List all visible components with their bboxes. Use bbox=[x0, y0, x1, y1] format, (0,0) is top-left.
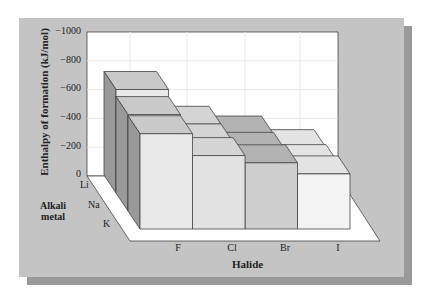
z-axis-label-line2: metal bbox=[40, 211, 66, 222]
col-label-br: Br bbox=[270, 242, 300, 253]
bar-front bbox=[140, 134, 193, 229]
col-label-f: F bbox=[163, 242, 193, 253]
y-tick: 0 bbox=[41, 168, 81, 179]
bar-side bbox=[116, 97, 128, 211]
row-label-k: K bbox=[103, 218, 110, 229]
row-label-na: Na bbox=[88, 199, 100, 210]
y-tick: −400 bbox=[41, 111, 81, 122]
col-label-i: I bbox=[323, 242, 353, 253]
bar-side bbox=[104, 72, 116, 193]
z-axis-label: Alkali metal bbox=[40, 200, 66, 222]
bar-front bbox=[245, 163, 298, 229]
x-axis-label: Halide bbox=[232, 258, 263, 270]
y-tick: −600 bbox=[41, 82, 81, 93]
bar-side bbox=[128, 116, 140, 229]
y-tick: −1000 bbox=[41, 25, 81, 36]
bar-front bbox=[298, 174, 351, 229]
row-label-li: Li bbox=[80, 179, 89, 190]
col-label-cl: Cl bbox=[217, 242, 247, 253]
z-axis-label-line1: Alkali bbox=[40, 200, 66, 211]
y-tick: −200 bbox=[41, 140, 81, 151]
y-tick: −800 bbox=[41, 54, 81, 65]
bar-front bbox=[193, 156, 246, 229]
y-axis-label: Enthalpy of formation (kJ/mol) bbox=[38, 28, 50, 176]
